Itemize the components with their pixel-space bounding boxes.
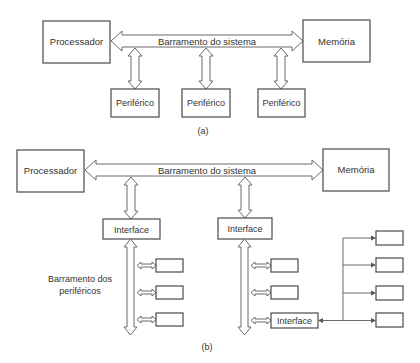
- peripheral-bus-label-line2: periféricos: [59, 286, 101, 296]
- caption-a: (a): [198, 126, 209, 136]
- small-link-arrow-l2: [137, 289, 156, 296]
- interface-label-b-2: Interface: [227, 224, 262, 234]
- peripheral-link-arrow-a-3: [274, 48, 288, 89]
- caption-b: (b): [202, 342, 213, 352]
- peripheral-label-a-1: Periférico: [116, 98, 154, 108]
- peripheral-box-b-l2: [156, 286, 183, 299]
- peripheral-box-b-r2: [376, 258, 403, 272]
- peripheral-link-arrow-a-1: [128, 48, 142, 89]
- interface-label-b-3: Interface: [277, 316, 312, 326]
- right-peripheral-tree: [318, 231, 403, 327]
- system-bus-label-b: Barramento do sistema: [158, 165, 257, 176]
- peripheral-label-a-2: Periférico: [187, 98, 225, 108]
- small-link-arrow-l1: [137, 262, 156, 269]
- tree-arrowhead-2: [371, 263, 376, 268]
- system-bus-diagrams: Barramento do sistema Processador Memóri…: [0, 0, 420, 363]
- peripheral-bus-arrow-b-1: [124, 239, 137, 335]
- tree-arrowhead-3: [371, 291, 376, 296]
- peripheral-box-b-m2: [271, 286, 298, 299]
- tree-arrowhead-4: [371, 318, 376, 323]
- left-peripheral-links: [137, 259, 183, 326]
- memory-label-b: Memória: [338, 164, 376, 175]
- peripheral-box-b-l3: [156, 313, 183, 326]
- small-link-arrow-m3: [251, 317, 271, 324]
- tree-stem-arrowhead: [318, 318, 323, 323]
- processor-label-a: Processador: [50, 36, 103, 47]
- peripheral-bus-label-line1: Barramento dos: [48, 274, 113, 284]
- interface-link-arrow-b-1: [124, 177, 138, 219]
- diagram-b: Barramento do sistema Processador Memóri…: [17, 149, 403, 352]
- peripheral-bus-arrow-b-2: [238, 239, 251, 335]
- system-bus-label-a: Barramento do sistema: [158, 36, 257, 47]
- peripheral-box-b-r1: [376, 231, 403, 245]
- small-link-arrow-l3: [137, 316, 156, 323]
- processor-label-b: Processador: [24, 165, 77, 176]
- peripheral-label-a-3: Periférico: [262, 98, 300, 108]
- memory-label-a: Memória: [318, 36, 356, 47]
- interface-label-b-1: Interface: [114, 225, 149, 235]
- peripheral-box-b-r3: [376, 286, 403, 300]
- small-link-arrow-m2: [251, 289, 271, 296]
- peripheral-link-arrow-a-2: [199, 48, 213, 89]
- interface-link-arrow-b-2: [238, 177, 252, 218]
- peripheral-box-b-l1: [156, 259, 183, 272]
- peripheral-box-b-r4: [376, 313, 403, 327]
- tree-arrowhead-1: [371, 236, 376, 241]
- diagram-a: Barramento do sistema Processador Memóri…: [43, 20, 370, 136]
- peripheral-box-b-m1: [271, 259, 298, 272]
- small-link-arrow-m1: [251, 262, 271, 269]
